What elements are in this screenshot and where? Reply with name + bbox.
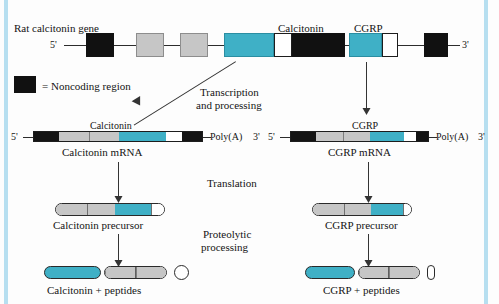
gene-exon-3-coding [180, 33, 208, 57]
gene-five-prime-label: 5' [50, 39, 57, 51]
cgrp-precursor-label: CGRP precursor [325, 219, 398, 231]
transcription-label-line1: Transcription [200, 86, 259, 98]
gene-exon-5-utr [382, 33, 398, 57]
flanking-right-seg-a [359, 267, 388, 278]
precursor-right-seg-cgrp [371, 204, 403, 215]
flanking-left-seg-a [105, 267, 135, 278]
diagram-canvas: Rat calcitonin gene 5' 3' Calcitonin CGR… [0, 0, 499, 304]
gene-three-prime-label: 3' [462, 39, 469, 51]
gene-exon-4-noncoding [292, 33, 345, 57]
frame-rule-right [484, 0, 488, 304]
gene-exon-1-noncoding [86, 33, 114, 57]
mrna-right-seg-noncoding-3 [416, 132, 428, 141]
mrna-left-seg-utr [166, 132, 182, 141]
precursor-left-seg-tail [151, 204, 164, 215]
gene-exon-2-coding [136, 33, 164, 57]
mrna-right-bar [290, 131, 429, 142]
translation-arrow-right-head [365, 196, 373, 203]
cgrp-small-peptide-oval [427, 265, 435, 280]
proteolytic-arrow-right-line [368, 234, 369, 262]
transcription-label-line2: and processing [196, 99, 262, 111]
gene-exon-4-utr [274, 33, 292, 57]
transcription-arrow-left-head [132, 96, 145, 108]
legend-swatch-noncoding [14, 76, 36, 93]
translation-arrow-right-line [368, 162, 369, 198]
translation-arrow-left-line [118, 162, 119, 198]
mrna-left-lead-line [23, 137, 33, 138]
precursor-right-seg-a [313, 204, 344, 215]
translation-arrow-left-head [115, 196, 123, 203]
mrna-right-name-label: CGRP mRNA [328, 146, 391, 158]
proteolytic-label-line2: processing [201, 241, 248, 253]
calcitonin-flanking-peptides-pill [104, 266, 167, 279]
mrna-left-bar [33, 131, 203, 142]
calcitonin-small-peptide-circle [174, 265, 189, 280]
calcitonin-precursor-capsule [55, 203, 165, 216]
mrna-right-three-prime: 3' [478, 131, 485, 143]
mrna-left-three-prime: 3' [253, 131, 260, 143]
transcription-arrow-right-line [366, 62, 367, 110]
mrna-left-seg-exon2 [59, 132, 89, 141]
proteolytic-label-line1: Proteolytic [203, 228, 251, 240]
precursor-left-seg-b [87, 204, 115, 215]
cgrp-precursor-capsule [312, 203, 412, 216]
mrna-left-name-label: Calcitonin mRNA [62, 146, 142, 158]
cgrp-peptide-pill [305, 266, 355, 279]
precursor-right-seg-b [344, 204, 370, 215]
mrna-right-polya-label: Poly(A) [436, 131, 468, 143]
frame-rule-left [4, 0, 8, 304]
mrna-left-polya-label: Poly(A) [210, 131, 242, 143]
cgrp-flanking-peptides-pill [358, 266, 420, 279]
cgrp-product-label: CGRP + peptides [323, 284, 400, 296]
transcription-arrow-right-head [363, 108, 371, 115]
precursor-right-seg-tail [403, 204, 411, 215]
mrna-right-seg-cgrp [370, 132, 405, 141]
mrna-right-seg-exon2 [316, 132, 344, 141]
flanking-right-seg-b [389, 267, 419, 278]
calcitonin-product-label: Calcitonin + peptides [47, 284, 141, 296]
mrna-left-five-prime: 5' [11, 131, 18, 143]
mrna-right-seg-utr [404, 132, 416, 141]
calcitonin-precursor-label: Calcitonin precursor [53, 219, 143, 231]
mrna-left-seg-noncoding-5 [34, 132, 59, 141]
legend-noncoding-label: = Noncoding region [42, 80, 131, 92]
mrna-left-seg-exon3 [89, 132, 119, 141]
precursor-left-seg-a [56, 204, 87, 215]
mrna-left-seg-noncoding-3 [182, 132, 202, 141]
calcitonin-peptide-pill [44, 266, 101, 279]
gene-exon-4-calcitonin [224, 33, 274, 57]
proteolytic-arrow-left-line [118, 234, 119, 262]
translation-label: Translation [207, 177, 257, 189]
mrna-right-lead-line [280, 137, 290, 138]
flanking-left-seg-b [136, 267, 166, 278]
precursor-left-seg-calcitonin [115, 204, 151, 215]
gene-exon-6-noncoding [424, 33, 448, 57]
mrna-right-seg-noncoding-5 [291, 132, 316, 141]
mrna-right-five-prime: 5' [268, 131, 275, 143]
gene-exon-5-cgrp [349, 33, 382, 57]
mrna-left-seg-calcitonin [119, 132, 166, 141]
mrna-right-seg-exon3 [343, 132, 370, 141]
